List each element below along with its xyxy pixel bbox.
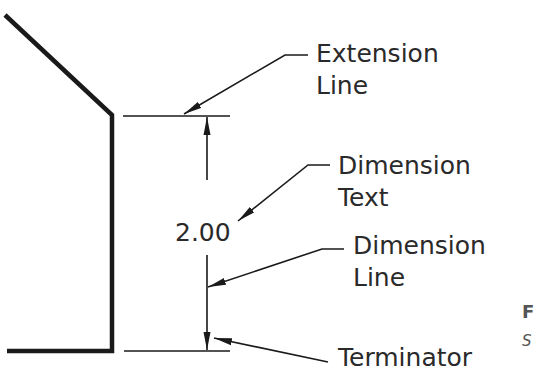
terminator-leader <box>214 338 328 362</box>
dimension-line-leader <box>208 249 344 287</box>
part-outline <box>5 15 112 351</box>
extension-leader <box>184 55 308 114</box>
label-dimension-text: Dimension Text <box>338 150 471 214</box>
cutoff-text-italic: S <box>522 332 532 350</box>
label-dimension-line: Dimension Line <box>353 230 486 294</box>
dimension-text-leader <box>238 165 330 221</box>
cutoff-text-bold: F <box>522 301 534 322</box>
label-terminator: Terminator <box>338 342 472 374</box>
label-extension-line: Extension Line <box>316 38 439 102</box>
dimension-value: 2.00 <box>175 218 231 248</box>
